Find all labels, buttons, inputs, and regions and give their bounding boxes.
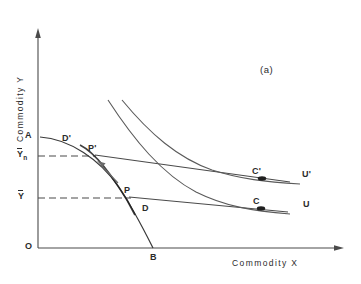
figure-panel-a: Commodity X Commodity Y (a) O A B D' P' … <box>0 0 361 284</box>
point-c-prime-marker <box>258 176 266 180</box>
panel-label: (a) <box>260 64 273 75</box>
origin-label: O <box>25 241 32 251</box>
label-D-prime: D' <box>62 133 71 143</box>
axes <box>38 36 336 248</box>
label-D: D <box>142 203 149 213</box>
ybar-n-letter: Y <box>17 149 23 159</box>
label-P: P <box>124 185 130 195</box>
point-c-marker <box>257 206 265 210</box>
diagram-canvas <box>0 0 361 284</box>
y-axis-label: Commodity Y <box>15 76 25 142</box>
ybar-letter: Y <box>18 191 24 201</box>
label-C-prime: C' <box>252 166 261 176</box>
movement-arrow-shaft <box>101 165 118 183</box>
ybar-n-overbar <box>17 148 22 149</box>
x-axis-label: Commodity X <box>232 258 298 268</box>
label-A: A <box>25 130 32 140</box>
label-C: C <box>253 196 260 206</box>
label-U-prime: U' <box>302 169 311 179</box>
ybar-overbar <box>18 190 23 191</box>
label-P-prime: P' <box>88 143 97 153</box>
y-axis-arrowhead <box>35 28 41 38</box>
ybar-n-subscript: n <box>23 154 27 161</box>
x-axis-arrowhead <box>334 245 344 251</box>
label-B: B <box>150 252 157 262</box>
movement-arrow <box>101 165 118 183</box>
indifference-curve-u <box>108 100 290 214</box>
reference-lines <box>38 156 131 198</box>
label-U: U <box>303 199 310 209</box>
label-ybar: Y <box>18 191 24 201</box>
label-ybar-n: Yn <box>17 149 28 161</box>
ppf-curve <box>40 137 153 248</box>
